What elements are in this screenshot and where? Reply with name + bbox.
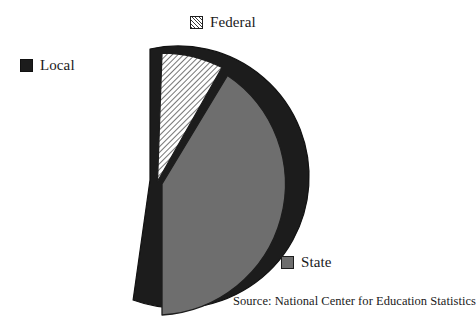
legend-label-federal: Federal bbox=[210, 15, 256, 30]
legend-item-state: State bbox=[281, 255, 332, 270]
source-note: Source: National Center for Education St… bbox=[233, 294, 476, 308]
legend-label-state: State bbox=[301, 255, 332, 270]
legend-swatch-state-icon bbox=[281, 256, 294, 269]
legend-swatch-federal-icon bbox=[190, 16, 203, 29]
legend-label-local: Local bbox=[40, 58, 75, 73]
legend-item-local: Local bbox=[20, 58, 75, 73]
legend-item-federal: Federal bbox=[190, 15, 256, 30]
legend-swatch-local-icon bbox=[20, 59, 33, 72]
